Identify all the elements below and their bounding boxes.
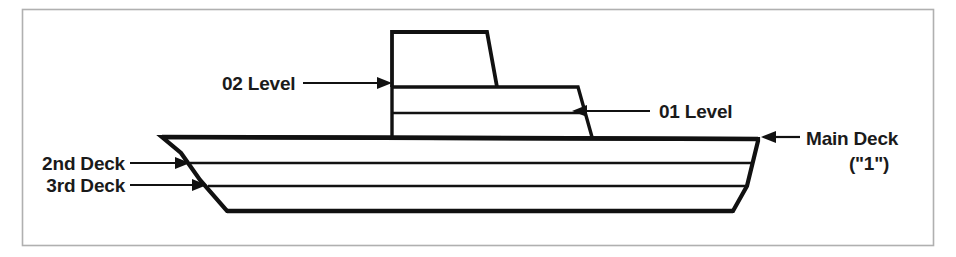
main-deck-line (162, 137, 758, 139)
ship-deck-diagram: 02 Level 01 Level Main Deck ("1") 2nd De… (0, 0, 956, 257)
label-3rd-deck: 3rd Deck (46, 175, 125, 196)
label-2nd-deck: 2nd Deck (42, 153, 126, 174)
label-main-deck-number: ("1") (849, 153, 889, 174)
ship-profile-illustration: 02 Level 01 Level Main Deck ("1") 2nd De… (0, 0, 956, 257)
label-01-level: 01 Level (659, 101, 732, 122)
label-main-deck: Main Deck (806, 128, 899, 149)
label-02-level: 02 Level (222, 73, 295, 94)
